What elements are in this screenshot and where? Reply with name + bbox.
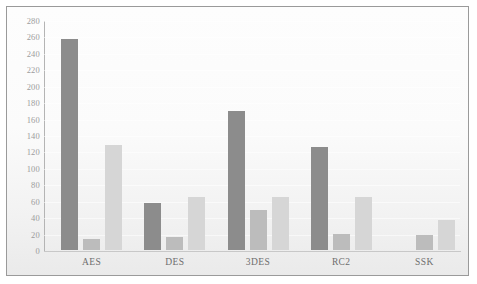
y-axis-tick-labels: 020406080100120140160180200220240260280 [7, 7, 40, 277]
bar-rc2-series-3 [355, 197, 372, 250]
y-axis-tick-label: 20 [31, 230, 40, 240]
y-axis-tick-label: 200 [27, 82, 40, 92]
y-axis-tick-label: 40 [31, 213, 40, 223]
bar-group-aes [61, 21, 122, 250]
bar-3des-series-1 [228, 111, 245, 250]
y-axis-tick-label: 120 [27, 147, 40, 157]
bar-des-series-3 [188, 197, 205, 250]
y-axis-tick-label: 80 [31, 180, 40, 190]
bar-group-3des [228, 21, 289, 250]
bar-group-des [144, 21, 205, 250]
bar-group-rc2 [311, 21, 372, 250]
x-axis-category-label: SSK [383, 257, 466, 267]
bar-aes-series-1 [61, 39, 78, 250]
bar-rc2-series-2 [333, 234, 350, 250]
x-axis-category-label: DES [133, 257, 216, 267]
bar-ssk-series-3 [438, 220, 455, 250]
y-axis-tick-label: 260 [27, 32, 40, 42]
bar-des-series-1 [144, 203, 161, 250]
bar-aes-series-2 [83, 239, 100, 250]
x-axis-category-label: 3DES [216, 257, 299, 267]
bar-3des-series-2 [250, 210, 267, 250]
y-axis-tick-label: 180 [27, 98, 40, 108]
x-axis-category-label: RC2 [300, 257, 383, 267]
y-axis-tick-label: 160 [27, 115, 40, 125]
chart-frame: 020406080100120140160180200220240260280 … [6, 6, 469, 276]
bar-rc2-series-1 [311, 147, 328, 250]
plot-area [44, 21, 460, 250]
bar-aes-series-3 [105, 145, 122, 250]
bar-3des-series-3 [272, 197, 289, 250]
bar-ssk-series-2 [416, 235, 433, 250]
y-axis-tick-label: 140 [27, 131, 40, 141]
y-axis-tick-label: 60 [31, 197, 40, 207]
bar-des-series-2 [166, 237, 183, 250]
y-axis-tick-label: 220 [27, 65, 40, 75]
y-axis-tick-label: 240 [27, 49, 40, 59]
x-axis-category-label: AES [50, 257, 133, 267]
bar-group-ssk [394, 21, 455, 250]
y-axis-tick-label: 0 [36, 246, 40, 256]
x-axis-line [44, 251, 461, 252]
y-axis-tick-label: 100 [27, 164, 40, 174]
y-axis-tick-label: 280 [27, 16, 40, 26]
